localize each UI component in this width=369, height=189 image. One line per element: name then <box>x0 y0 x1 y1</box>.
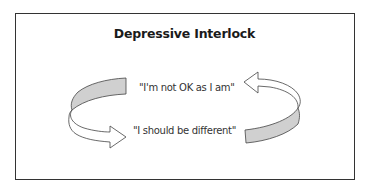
left-arrow-shaded-band <box>71 78 126 110</box>
statement-not-ok: "I'm not OK as I am" <box>139 82 235 93</box>
statement-should-be-different: "I should be different" <box>133 125 236 136</box>
left-arrow-body <box>69 110 126 148</box>
cycle-arrows <box>0 0 369 189</box>
right-arrow-body <box>244 72 300 108</box>
right-arrow-shaded-band <box>245 108 300 143</box>
